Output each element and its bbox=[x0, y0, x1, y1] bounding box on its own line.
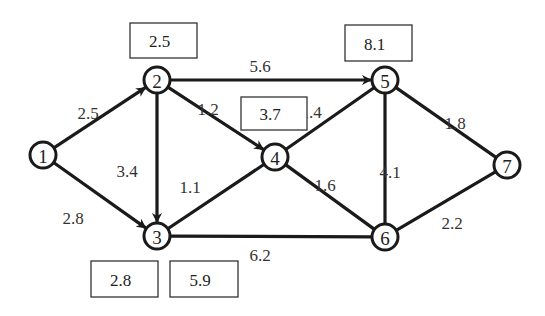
node-label: 1 bbox=[38, 146, 48, 167]
edge-weight-label: 1.8 bbox=[444, 114, 465, 133]
node-label: 5 bbox=[380, 71, 390, 92]
node-label: 7 bbox=[502, 156, 512, 177]
value-box: 2.5 bbox=[130, 23, 197, 58]
node-2: 2 bbox=[144, 67, 170, 93]
value-box: 2.8 bbox=[91, 261, 158, 297]
value-box-label: 5.9 bbox=[189, 271, 210, 290]
node-5: 5 bbox=[372, 67, 398, 93]
node-3: 3 bbox=[144, 223, 170, 249]
edge-weight-label: 6.2 bbox=[249, 246, 270, 265]
node-7: 7 bbox=[494, 152, 520, 178]
value-box-label: 3.7 bbox=[259, 105, 281, 124]
node-label: 4 bbox=[270, 148, 280, 169]
edge-3-4 bbox=[168, 164, 264, 229]
edge-1-2 bbox=[54, 88, 145, 148]
value-box: 8.1 bbox=[345, 25, 412, 61]
node-6: 6 bbox=[372, 224, 398, 250]
node-label: 2 bbox=[152, 71, 162, 92]
edge-weight-label: 1.6 bbox=[314, 176, 335, 195]
edge-4-6 bbox=[286, 165, 375, 230]
value-box-label: 8.1 bbox=[364, 35, 385, 54]
node-label: 6 bbox=[380, 228, 390, 249]
edge-weight-label: 1.2 bbox=[197, 100, 218, 119]
edge-weight-label: 2.8 bbox=[62, 209, 83, 228]
value-box-label: 2.5 bbox=[149, 32, 170, 51]
value-box: 3.7 bbox=[241, 97, 307, 130]
edge-weight-label: 5.6 bbox=[249, 57, 270, 76]
edge-3-6 bbox=[170, 236, 372, 237]
node-4: 4 bbox=[262, 144, 288, 170]
edge-weight-label: 1.1 bbox=[179, 178, 200, 197]
value-box: 5.9 bbox=[170, 261, 238, 297]
network-diagram: 2.52.85.61.23.41.11.41.66.24.11.82.2 2.5… bbox=[0, 0, 545, 316]
node-1: 1 bbox=[30, 142, 56, 168]
edge-weight-label: 2.2 bbox=[441, 214, 462, 233]
value-box-label: 2.8 bbox=[110, 271, 131, 290]
edge-weight-label: 3.4 bbox=[116, 162, 138, 181]
node-label: 3 bbox=[152, 227, 162, 248]
edge-weight-label: 2.5 bbox=[77, 104, 98, 123]
edge-weight-label: 4.1 bbox=[379, 163, 400, 182]
